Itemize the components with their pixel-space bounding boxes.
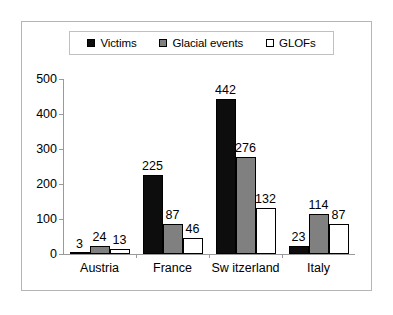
plot-area: 0100200300400500 32413Austria2258746Fran…	[63, 79, 355, 254]
chart-frame: Victims Glacial events GLOFs 01002003004…	[21, 21, 372, 291]
legend-swatch-victims	[87, 39, 95, 47]
bar-group-bars	[136, 79, 209, 254]
bar-switzerland-glofs[interactable]	[256, 208, 276, 254]
bar-group: 32413Austria	[63, 79, 136, 254]
y-axis-label: 300	[36, 143, 57, 156]
legend-swatch-glacial-events	[159, 39, 167, 47]
bar-group-bars	[63, 79, 136, 254]
legend-label-glacial-events: Glacial events	[172, 37, 243, 49]
x-axis-tick	[209, 254, 210, 258]
x-axis-label: Austria	[80, 261, 119, 275]
y-axis-label: 100	[36, 213, 57, 226]
legend-label-glofs: GLOFs	[279, 37, 316, 49]
bar-austria-glofs[interactable]	[110, 249, 130, 254]
bar-group-bars	[282, 79, 355, 254]
y-axis-label: 400	[36, 108, 57, 121]
bar-france-glacial-events[interactable]	[163, 224, 183, 254]
y-axis-tick	[59, 254, 63, 255]
legend-item-glofs[interactable]: GLOFs	[266, 37, 316, 49]
bar-italy-victims[interactable]	[289, 246, 309, 254]
x-axis-label: France	[153, 261, 192, 275]
bar-group-bars	[209, 79, 282, 254]
chart-legend: Victims Glacial events GLOFs	[69, 31, 334, 55]
y-axis-label: 500	[36, 73, 57, 86]
y-axis-label: 0	[50, 248, 57, 261]
bar-switzerland-victims[interactable]	[216, 99, 236, 254]
x-axis-tick	[282, 254, 283, 258]
bar-switzerland-glacial-events[interactable]	[236, 157, 256, 254]
legend-label-victims: Victims	[100, 37, 136, 49]
bar-france-victims[interactable]	[143, 175, 163, 254]
bar-italy-glacial-events[interactable]	[309, 214, 329, 254]
bar-france-glofs[interactable]	[183, 238, 203, 254]
legend-item-glacial-events[interactable]: Glacial events	[159, 37, 243, 49]
bar-group: 2311487Italy	[282, 79, 355, 254]
y-axis-label: 200	[36, 178, 57, 191]
bar-italy-glofs[interactable]	[329, 224, 349, 254]
x-axis-label: Italy	[307, 261, 330, 275]
legend-swatch-glofs	[266, 39, 274, 47]
x-axis-label: Sw itzerland	[211, 261, 279, 275]
bar-group: 442276132Sw itzerland	[209, 79, 282, 254]
bar-group: 2258746France	[136, 79, 209, 254]
bar-austria-victims[interactable]	[70, 252, 90, 254]
x-axis-tick	[136, 254, 137, 258]
legend-item-victims[interactable]: Victims	[87, 37, 136, 49]
bar-austria-glacial-events[interactable]	[90, 246, 110, 254]
